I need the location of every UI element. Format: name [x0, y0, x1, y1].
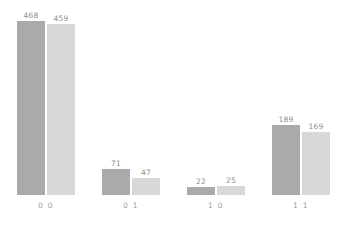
bar-series1-cat1[interactable]: [102, 169, 130, 195]
bar-value-label: 47: [141, 168, 151, 177]
bar-series1-cat0[interactable]: [17, 21, 45, 195]
bar-series2-cat0[interactable]: [47, 24, 75, 195]
x-tick-label-1: 0 1: [123, 201, 139, 210]
bar-series2-cat3[interactable]: [302, 132, 330, 195]
bar-group-3: 189 169: [271, 21, 331, 195]
x-tick-label-0: 0 0: [38, 201, 54, 210]
bar-group-2: 22 25: [186, 21, 246, 195]
x-tick-label-2: 1 0: [208, 201, 224, 210]
bar-wrap-1-1: 47: [132, 21, 160, 195]
bar-wrap-3-0: 189: [272, 21, 300, 195]
bar-series2-cat2[interactable]: [217, 186, 245, 195]
bar-value-label: 459: [54, 14, 69, 23]
bar-group-0: 468 459: [16, 21, 76, 195]
bar-value-label: 25: [226, 176, 236, 185]
bar-group-1: 71 47: [101, 21, 161, 195]
bar-series2-cat1[interactable]: [132, 178, 160, 195]
bar-value-label: 22: [196, 177, 206, 186]
bar-wrap-2-1: 25: [217, 21, 245, 195]
bar-value-label: 468: [24, 11, 39, 20]
bar-chart: 468 459 71 47 22: [0, 0, 342, 226]
bar-wrap-0-0: 468: [17, 21, 45, 195]
bar-value-label: 189: [279, 115, 294, 124]
plot-area: 468 459 71 47 22: [0, 0, 342, 226]
bar-value-label: 169: [309, 122, 324, 131]
x-tick-label-3: 1 1: [293, 201, 309, 210]
bar-wrap-0-1: 459: [47, 21, 75, 195]
bar-value-label: 71: [111, 159, 121, 168]
bar-wrap-3-1: 169: [302, 21, 330, 195]
bar-series1-cat2[interactable]: [187, 187, 215, 195]
bar-wrap-2-0: 22: [187, 21, 215, 195]
bar-series1-cat3[interactable]: [272, 125, 300, 195]
bar-wrap-1-0: 71: [102, 21, 130, 195]
